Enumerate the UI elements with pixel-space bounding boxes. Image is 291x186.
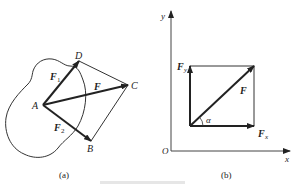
force-F2-label: F 2	[53, 122, 65, 135]
force-composition-figure: D C A B F F 1 F 2 (a) y x O α F	[0, 0, 291, 186]
point-C-label: C	[131, 80, 138, 91]
origin-label: O	[162, 146, 169, 156]
force-Fy-subscript: y	[183, 66, 188, 74]
force-F1-symbol: F	[49, 71, 57, 82]
angle-alpha-label: α	[206, 115, 211, 125]
y-axis-label: y	[160, 11, 165, 21]
force-Fx-symbol: F	[257, 128, 265, 139]
caption-b: (b)	[221, 170, 232, 180]
caption-a: (a)	[59, 170, 69, 180]
x-axis-label: x	[284, 154, 289, 164]
force-Fy-symbol: F	[176, 61, 184, 72]
force-F2-symbol: F	[53, 122, 61, 133]
force-Fy-label: F y	[176, 61, 188, 74]
force-F-label-b: F	[239, 85, 247, 96]
force-Fx-label: F x	[257, 128, 269, 141]
point-A-label: A	[31, 100, 39, 111]
force-F-label: F	[93, 81, 101, 92]
angle-alpha-arc	[200, 117, 204, 126]
point-D-label: D	[74, 50, 83, 61]
force-Fx-subscript: x	[264, 133, 269, 141]
force-F-arrow	[190, 66, 254, 126]
force-F1-subscript: 1	[57, 76, 61, 84]
force-F1-label: F 1	[49, 71, 61, 84]
side-DC	[79, 61, 128, 85]
point-B-label: B	[87, 143, 93, 154]
figure-a: D C A B F F 1 F 2 (a)	[6, 50, 138, 180]
figure-b: y x O α F F x F y (b)	[160, 11, 290, 180]
force-F2-subscript: 2	[61, 127, 65, 135]
figure-caption-faint	[100, 181, 185, 184]
